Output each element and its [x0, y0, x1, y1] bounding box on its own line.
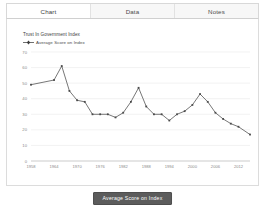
plot-area: 010203040506070 195819641970197619821988…: [7, 19, 260, 186]
x-axis-tick-labels: 1958196419701976198219881994200020062012: [26, 164, 243, 169]
svg-text:20: 20: [22, 127, 27, 132]
series-line-average-score: [31, 66, 250, 135]
svg-text:10: 10: [22, 143, 27, 148]
gridlines: [31, 52, 250, 145]
svg-text:2012: 2012: [234, 164, 244, 169]
tab-bar: Chart Data Notes: [6, 3, 259, 19]
svg-text:1970: 1970: [73, 164, 83, 169]
svg-text:1976: 1976: [96, 164, 106, 169]
tab-data[interactable]: Data: [91, 4, 175, 18]
tab-chart[interactable]: Chart: [7, 4, 91, 18]
svg-text:1994: 1994: [165, 164, 175, 169]
tab-chart-label: Chart: [41, 8, 57, 15]
tab-data-label: Data: [126, 8, 140, 15]
svg-text:1958: 1958: [26, 164, 36, 169]
svg-text:50: 50: [22, 81, 27, 86]
series-markers: [30, 65, 251, 135]
tab-notes[interactable]: Notes: [175, 4, 258, 18]
line-chart-svg: 010203040506070 195819641970197619821988…: [7, 19, 260, 186]
average-score-button[interactable]: Average Score on Index: [93, 192, 173, 205]
svg-text:1964: 1964: [49, 164, 59, 169]
svg-text:70: 70: [22, 50, 27, 55]
chart-panel: Trust In Government Index Average Score …: [6, 19, 259, 186]
y-axis-tick-labels: 010203040506070: [22, 50, 27, 164]
svg-text:60: 60: [22, 65, 27, 70]
svg-text:1988: 1988: [142, 164, 152, 169]
svg-text:2000: 2000: [188, 164, 198, 169]
svg-text:40: 40: [22, 96, 27, 101]
svg-text:0: 0: [25, 159, 28, 164]
svg-text:2006: 2006: [211, 164, 221, 169]
chart-viewer-app: Chart Data Notes Trust In Government Ind…: [0, 0, 265, 214]
average-score-button-label: Average Score on Index: [103, 195, 163, 201]
svg-text:1982: 1982: [119, 164, 129, 169]
svg-text:30: 30: [22, 112, 27, 117]
tab-notes-label: Notes: [208, 8, 225, 15]
